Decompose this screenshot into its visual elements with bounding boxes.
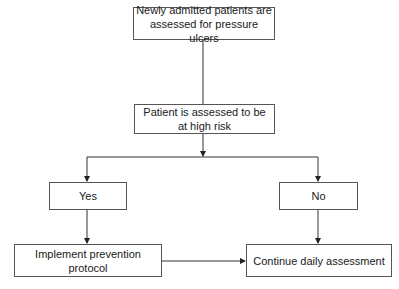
- node-continue: Continue daily assessment: [246, 244, 392, 277]
- node-high-risk-label: Patient is assessed to be at high risk: [141, 105, 268, 133]
- node-yes-label: Yes: [79, 189, 97, 203]
- node-prevention: Implement prevention protocol: [14, 244, 162, 277]
- node-no-label: No: [311, 189, 325, 203]
- node-high-risk: Patient is assessed to be at high risk: [134, 104, 275, 134]
- node-continue-label: Continue daily assessment: [253, 254, 384, 268]
- node-no: No: [279, 182, 358, 210]
- node-admitted-label: Newly admitted patients are assessed for…: [134, 3, 274, 45]
- node-admitted: Newly admitted patients are assessed for…: [133, 7, 275, 40]
- node-yes: Yes: [49, 182, 127, 210]
- node-prevention-label: Implement prevention protocol: [15, 247, 161, 275]
